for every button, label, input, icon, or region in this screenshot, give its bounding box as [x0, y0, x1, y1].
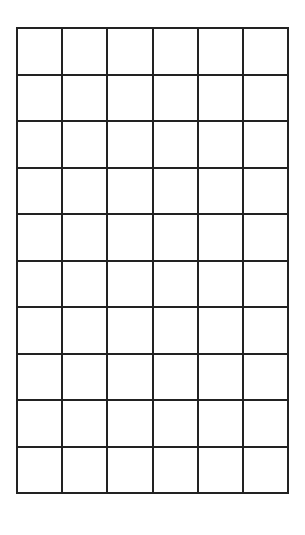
- grid-cell: [18, 76, 63, 123]
- grid-cell: [108, 76, 153, 123]
- grid-cell: [18, 29, 63, 76]
- grid-cell: [108, 122, 153, 169]
- grid-cell: [63, 355, 108, 402]
- grid-cell: [154, 448, 199, 495]
- grid-cell: [244, 401, 289, 448]
- grid-cell: [244, 215, 289, 262]
- grid-cell: [18, 122, 63, 169]
- grid-cell: [154, 355, 199, 402]
- grid-cell: [63, 215, 108, 262]
- grid-cell: [108, 262, 153, 309]
- grid-cell: [244, 308, 289, 355]
- grid-cell: [199, 122, 244, 169]
- grid-cell: [18, 262, 63, 309]
- grid-cell: [18, 215, 63, 262]
- grid-cell: [154, 215, 199, 262]
- grid-cell: [154, 308, 199, 355]
- grid-cell: [18, 308, 63, 355]
- grid-cell: [63, 401, 108, 448]
- grid-cell: [244, 262, 289, 309]
- grid-cell: [244, 29, 289, 76]
- grid-cell: [108, 215, 153, 262]
- grid-cell: [63, 122, 108, 169]
- grid-cell: [154, 169, 199, 216]
- grid-cell: [63, 448, 108, 495]
- grid-cell: [199, 448, 244, 495]
- grid-cell: [63, 262, 108, 309]
- grid-cell: [108, 308, 153, 355]
- grid-cell: [244, 355, 289, 402]
- grid-cell: [154, 401, 199, 448]
- grid-cell: [154, 122, 199, 169]
- grid-cell: [108, 448, 153, 495]
- grid-cell: [244, 448, 289, 495]
- grid-cell: [108, 29, 153, 76]
- grid-cell: [18, 169, 63, 216]
- grid-cell: [244, 169, 289, 216]
- empty-grid: [16, 27, 289, 494]
- grid-cell: [63, 76, 108, 123]
- grid-cell: [63, 169, 108, 216]
- grid-cell: [18, 355, 63, 402]
- grid-cell: [18, 401, 63, 448]
- grid-cell: [199, 401, 244, 448]
- grid-cell: [108, 401, 153, 448]
- grid-cell: [199, 308, 244, 355]
- grid-cell: [63, 308, 108, 355]
- grid-cell: [199, 262, 244, 309]
- grid-cell: [199, 215, 244, 262]
- grid-cell: [199, 76, 244, 123]
- grid-cell: [63, 29, 108, 76]
- grid-cell: [18, 448, 63, 495]
- grid-cell: [244, 122, 289, 169]
- grid-cell: [154, 29, 199, 76]
- grid-cell: [154, 76, 199, 123]
- grid-cell: [108, 169, 153, 216]
- grid-cell: [199, 29, 244, 76]
- grid-cell: [154, 262, 199, 309]
- grid-cell: [108, 355, 153, 402]
- grid-cell: [199, 169, 244, 216]
- grid-cell: [244, 76, 289, 123]
- grid-cell: [199, 355, 244, 402]
